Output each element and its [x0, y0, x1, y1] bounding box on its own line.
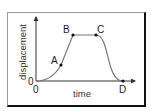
point-a-marker [59, 63, 62, 66]
displacement-curve [36, 35, 123, 81]
point-d-marker [121, 79, 124, 82]
x-axis-label: time [73, 88, 91, 99]
y-axis-label: displacement [17, 24, 28, 80]
point-b-label: B [63, 24, 70, 35]
displacement-time-graph: A B C D 0 0 time displacement [0, 0, 152, 111]
origin-x-label: 0 [33, 84, 39, 95]
point-b-marker [71, 33, 74, 36]
point-c-label: C [97, 24, 104, 35]
point-a-label: A [51, 55, 58, 66]
point-d-label: D [119, 84, 126, 95]
